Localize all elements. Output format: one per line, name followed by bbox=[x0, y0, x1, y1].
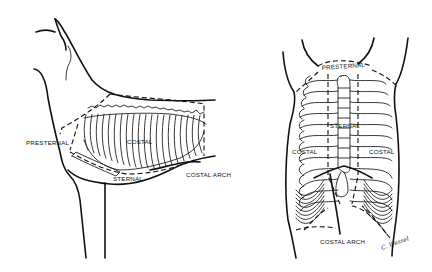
label-costal-arch-lateral: COSTAL ARCH bbox=[186, 171, 231, 178]
neck-outline bbox=[36, 30, 55, 32]
rib bbox=[180, 115, 184, 160]
rib bbox=[90, 114, 94, 153]
rib bbox=[156, 115, 160, 167]
label-costal-right-ventral: COSTAL bbox=[369, 148, 395, 155]
body-outline-left bbox=[283, 52, 296, 258]
rib-left bbox=[304, 91, 338, 95]
label-sternal-lateral: STERNAL bbox=[113, 175, 143, 182]
rib-left bbox=[300, 135, 338, 139]
rib-end-left bbox=[303, 87, 308, 97]
neck-left bbox=[302, 40, 318, 66]
rib-left bbox=[306, 80, 338, 84]
rib bbox=[114, 114, 118, 163]
lateral-view: PRESTERNAL COSTAL STERNAL COSTAL ARCH bbox=[26, 19, 231, 258]
rib-right bbox=[350, 102, 390, 106]
rib-end-left bbox=[299, 120, 304, 130]
label-presternal-lateral: PRESTERNAL bbox=[26, 139, 70, 146]
rib bbox=[96, 114, 100, 155]
front-neck-outline bbox=[34, 69, 86, 258]
costal-arch-pointer bbox=[330, 174, 340, 234]
ventral-view: PRESTERNAL STERNAL COSTAL COSTAL COSTAL … bbox=[283, 38, 410, 258]
neck-right bbox=[358, 38, 374, 64]
rib-right bbox=[350, 179, 392, 189]
jaw-line bbox=[66, 46, 71, 80]
rib bbox=[168, 115, 172, 165]
rib bbox=[102, 114, 106, 158]
anatomy-diagram: PRESTERNAL COSTAL STERNAL COSTAL ARCH PR… bbox=[0, 0, 432, 272]
label-costal-lateral: COSTAL bbox=[127, 138, 153, 145]
rib-end-left bbox=[299, 131, 304, 141]
rib-right bbox=[350, 113, 392, 117]
rib-right bbox=[350, 135, 392, 139]
rib-end-left bbox=[305, 76, 310, 86]
rib bbox=[162, 115, 166, 166]
rib-left bbox=[300, 157, 338, 161]
rib-end-left bbox=[299, 175, 304, 185]
rib-right bbox=[350, 80, 386, 84]
xiphoid bbox=[336, 172, 348, 197]
head-line bbox=[55, 19, 215, 101]
sternum-lateral bbox=[72, 152, 120, 176]
rib-end-left bbox=[299, 109, 304, 119]
rib-end-left bbox=[299, 164, 304, 174]
rib bbox=[108, 114, 112, 161]
rib-right bbox=[350, 157, 392, 161]
rib-right bbox=[350, 91, 388, 95]
rib-left bbox=[300, 113, 338, 117]
rib bbox=[186, 115, 190, 158]
label-costal-left-ventral: COSTAL bbox=[292, 148, 318, 155]
costal-arch-line bbox=[150, 162, 200, 170]
spine bbox=[88, 105, 204, 114]
rib-left bbox=[302, 102, 338, 106]
rib-end-left bbox=[301, 98, 306, 108]
label-costal-arch-ventral: COSTAL ARCH bbox=[320, 238, 365, 245]
rib bbox=[120, 114, 124, 164]
artist-signature: C. Wessel bbox=[380, 234, 410, 251]
sternal-region-outline bbox=[70, 152, 194, 174]
body-outline-right bbox=[392, 38, 408, 256]
lower-rib-right bbox=[364, 180, 392, 195]
label-sternal-ventral: STERNAL bbox=[330, 122, 360, 129]
rib bbox=[174, 115, 178, 163]
